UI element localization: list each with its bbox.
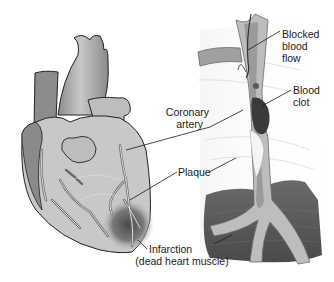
label-line: Blocked — [282, 28, 319, 40]
label-blocked-blood-flow: Blocked blood flow — [282, 28, 319, 64]
label-line: flow — [282, 52, 319, 64]
label-blood-clot: Blood clot — [293, 84, 320, 108]
label-line: blood — [282, 40, 319, 52]
heart-panel — [22, 35, 154, 252]
label-infarction: Infarction (dead heart muscle) — [133, 243, 231, 267]
label-line: artery — [158, 118, 209, 130]
label-plaque: Plaque — [178, 166, 211, 178]
label-line: (dead heart muscle) — [133, 255, 231, 267]
label-line: clot — [293, 96, 320, 108]
label-coronary-artery: Coronary artery — [158, 106, 209, 130]
label-line: Infarction — [133, 243, 231, 255]
label-line: Blood — [293, 84, 320, 96]
label-line: Plaque — [178, 166, 211, 178]
label-line: Coronary — [158, 106, 209, 118]
